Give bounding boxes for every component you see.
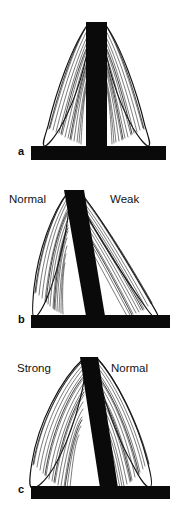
panel-letter-c: c [18, 484, 24, 495]
label-right-weak: Weak [110, 194, 139, 206]
base-bar [31, 146, 166, 160]
panel-b: Normal Weak b [0, 168, 183, 336]
label-right-normal: Normal [111, 363, 148, 375]
panel-a-drawing [0, 0, 183, 168]
label-left-strong: Strong [17, 363, 51, 375]
central-post [86, 22, 107, 148]
muscle-left-normal [33, 192, 71, 317]
panel-c: Strong Normal c [0, 336, 183, 507]
base-bar [31, 315, 170, 328]
muscle-left-strong [30, 358, 86, 488]
muscle-right-normal [103, 24, 150, 146]
panel-a: a [0, 0, 183, 168]
base-bar [31, 486, 170, 499]
panel-letter-b: b [18, 314, 25, 325]
figure-root: a [0, 0, 183, 507]
muscle-left-normal [43, 24, 90, 146]
panel-letter-a: a [18, 146, 24, 157]
label-left-normal: Normal [9, 194, 46, 206]
